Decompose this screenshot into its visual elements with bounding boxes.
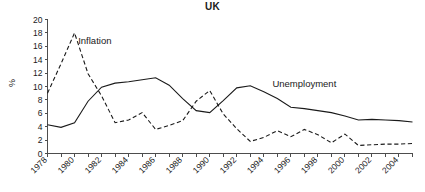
y-tick-label: 6 xyxy=(38,108,43,118)
x-tick-label: 1980 xyxy=(56,155,77,176)
uk-inflation-unemployment-chart: UK % 02468101214161820 19781980198219841… xyxy=(0,0,425,192)
x-tick-label: 1996 xyxy=(272,155,293,176)
x-tick-label: 2004 xyxy=(380,155,401,176)
x-tick-label: 1990 xyxy=(191,155,212,176)
y-tick-label: 2 xyxy=(38,135,43,145)
series-label-group: InflationUnemployment xyxy=(78,35,336,89)
x-tick-label: 2002 xyxy=(353,155,374,176)
x-tick-label: 1998 xyxy=(299,155,320,176)
y-tick-label: 10 xyxy=(33,82,43,92)
x-tick-label: 1992 xyxy=(218,155,239,176)
data-series-group xyxy=(48,33,413,146)
y-tick-label: 4 xyxy=(38,122,43,132)
y-tick-label: 16 xyxy=(33,41,43,51)
x-tick-label: 1994 xyxy=(245,155,266,176)
y-tick-label: 12 xyxy=(33,68,43,78)
x-axis-tick-group: 1978198019821984198619881990199219941996… xyxy=(28,154,412,176)
y-tick-label: 8 xyxy=(38,95,43,105)
y-tick-label: 18 xyxy=(33,28,43,38)
x-tick-label: 1982 xyxy=(83,155,104,176)
x-tick-label: 1988 xyxy=(164,155,185,176)
y-axis-tick-group: 02468101214161820 xyxy=(33,15,47,159)
series-label-unemployment: Unemployment xyxy=(272,78,336,89)
y-tick-label: 20 xyxy=(33,15,43,25)
series-line-unemployment xyxy=(48,78,413,128)
series-label-inflation: Inflation xyxy=(78,35,111,46)
x-tick-label: 2000 xyxy=(326,155,347,176)
x-tick-label: 1978 xyxy=(28,155,49,176)
x-tick-label: 1984 xyxy=(110,155,131,176)
series-line-inflation xyxy=(48,33,413,146)
x-tick-label: 1986 xyxy=(137,155,158,176)
y-tick-label: 14 xyxy=(33,55,43,65)
plot-area: 02468101214161820 1978198019821984198619… xyxy=(0,0,425,192)
